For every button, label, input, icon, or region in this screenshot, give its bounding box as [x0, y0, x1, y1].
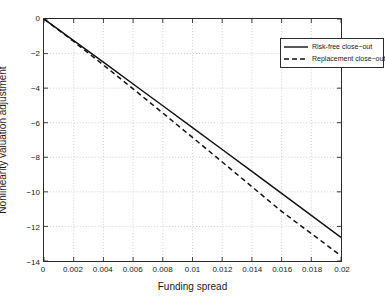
legend-swatch-dashed-icon: [283, 55, 309, 63]
x-tick-label: 0.02: [334, 265, 350, 274]
y-tick-label: −6: [31, 118, 40, 127]
y-tick-label: −12: [26, 223, 40, 232]
x-tick-label: 0.014: [242, 265, 262, 274]
x-tick-label: 0.012: [212, 265, 232, 274]
legend-swatch-solid-icon: [283, 43, 309, 51]
legend-label-replacement: Replacement close−out: [312, 55, 385, 63]
x-tick-label: 0.016: [272, 265, 292, 274]
x-tick-label: 0.004: [93, 265, 113, 274]
x-tick-label: 0.008: [153, 265, 173, 274]
y-tick-label: −10: [26, 188, 40, 197]
x-tick-label: 0.002: [63, 265, 83, 274]
y-tick-label: −14: [26, 258, 40, 267]
x-tick-label: 0: [41, 265, 45, 274]
x-tick-label: 0.018: [302, 265, 322, 274]
y-tick-label: −4: [31, 83, 40, 92]
legend-item-replacement: Replacement close−out: [283, 54, 380, 64]
legend-label-risk-free: Risk-free close−out: [312, 43, 372, 51]
x-tick-label: 0.006: [123, 265, 143, 274]
chart-legend: Risk-free close−out Replacement close−ou…: [280, 38, 384, 68]
legend-item-risk-free: Risk-free close−out: [283, 42, 380, 52]
y-tick-label: 0: [36, 14, 40, 23]
y-tick-label: −8: [31, 153, 40, 162]
y-axis-title: Nonlinearity valuation adjustment: [0, 66, 9, 213]
plot-area: Risk-free close−out Replacement close−ou…: [43, 18, 342, 262]
x-tick-label: 0.01: [185, 265, 201, 274]
x-axis-title: Funding spread: [43, 281, 342, 293]
y-tick-label: −2: [31, 48, 40, 57]
